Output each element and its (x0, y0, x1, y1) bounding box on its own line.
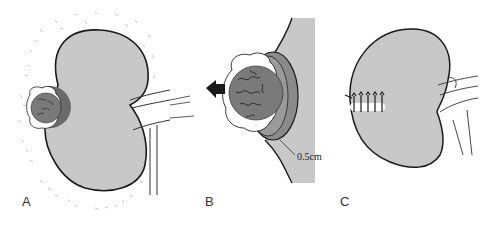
kidney (350, 29, 450, 167)
panel-c: C (330, 0, 495, 226)
kidney-with-tumor-illustration (0, 0, 170, 226)
panel-a: A (0, 0, 170, 226)
panel-label-c: C (340, 194, 349, 209)
panel-label-b: B (205, 194, 214, 209)
panel-b: 0.5cm B (170, 0, 335, 226)
tumor (31, 93, 61, 123)
tumor-enucleation-illustration (170, 0, 335, 226)
margin-annotation: 0.5cm (297, 151, 322, 162)
panel-label-a: A (22, 194, 31, 209)
sutured-kidney-illustration (330, 0, 495, 226)
